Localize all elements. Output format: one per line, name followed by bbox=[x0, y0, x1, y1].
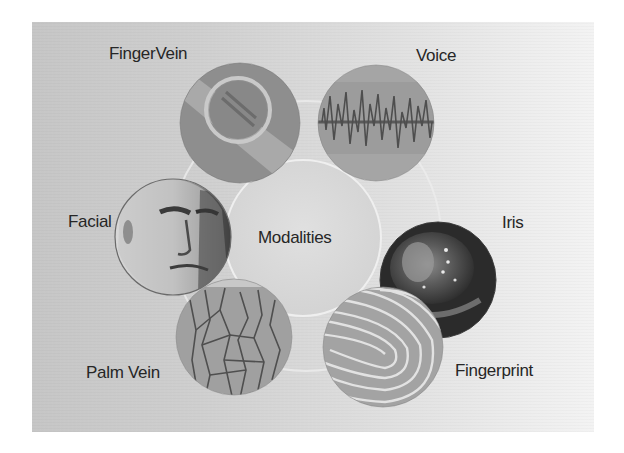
facial-label: Facial bbox=[68, 212, 112, 232]
palm-vein-label: Palm Vein bbox=[86, 363, 160, 383]
iris-label: Iris bbox=[502, 213, 523, 233]
fingerprint-label: Fingerprint bbox=[455, 361, 533, 381]
center-label: Modalities bbox=[258, 228, 332, 248]
palm-vein-node bbox=[176, 279, 292, 403]
voice-label: Voice bbox=[416, 46, 456, 66]
voice-node bbox=[318, 65, 434, 181]
finger-vein-label: FingerVein bbox=[109, 44, 187, 64]
